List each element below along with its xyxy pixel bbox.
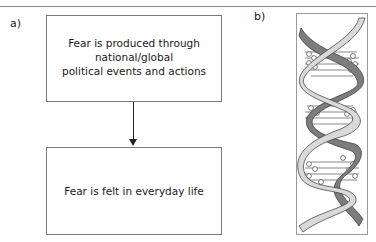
flow-box-1-text: Fear is produced through national/global… bbox=[56, 36, 212, 78]
flow-box-1-line-3: political events and actions bbox=[62, 64, 206, 78]
dna-illustration-frame bbox=[296, 13, 368, 235]
flow-box-2-line-1: Fear is felt in everyday life bbox=[64, 184, 203, 198]
flow-box-1-line-2: national/global bbox=[62, 50, 206, 64]
flow-connector-line bbox=[133, 102, 134, 140]
arrow-down-icon bbox=[129, 139, 137, 146]
flow-box-1-line-1: Fear is produced through bbox=[62, 36, 206, 50]
flow-box-fear-produced: Fear is produced through national/global… bbox=[46, 15, 222, 102]
dna-double-helix-icon bbox=[297, 14, 367, 234]
panel-a-label: a) bbox=[10, 17, 21, 30]
flow-box-fear-felt: Fear is felt in everyday life bbox=[46, 147, 222, 235]
top-rule-divider bbox=[0, 6, 376, 7]
panel-b-label: b) bbox=[254, 10, 265, 23]
